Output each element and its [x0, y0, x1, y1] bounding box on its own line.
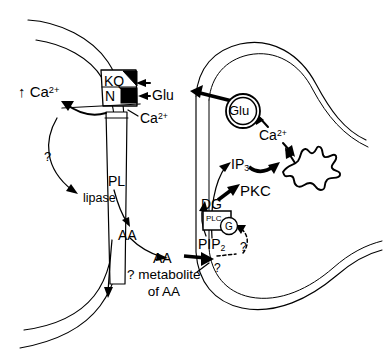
glu-to-receptor-arrow-lower — [138, 92, 150, 100]
label-question-lipase: ? — [44, 150, 51, 163]
label-arachidonic-acid-membrane: AA — [118, 228, 137, 242]
label-presynaptic-calcium: Ca2+ — [259, 128, 287, 142]
synapse-diagram-figure: ↑ Ca2+ KQ N Glu Ca2+ ? PL lipase AA AA ?… — [0, 0, 384, 357]
label-aa-metabolite-line2: of AA — [127, 285, 201, 299]
label-diacylglycerol: DG — [201, 197, 222, 211]
label-pip2: PIP2 — [198, 237, 225, 251]
label-aa-metabolite: ? metabolite of AA — [127, 268, 201, 298]
label-question-g-protein: ? — [240, 241, 247, 253]
label-pkc: PKC — [240, 183, 271, 198]
presynaptic-outer-membrane — [196, 42, 366, 140]
label-ip3: IP3 — [231, 157, 249, 171]
presynaptic-inner-membrane-lower — [209, 100, 382, 298]
calcium-influx-arrow — [61, 101, 106, 115]
glu-to-receptor-arrow-upper — [136, 79, 150, 87]
question-to-lipase-arrow — [49, 118, 78, 194]
label-aa-metabolite-line1: ? metabolite — [127, 268, 201, 282]
label-receptor-nmda: N — [105, 89, 115, 103]
label-question-retrograde: ? — [214, 262, 221, 274]
label-g-protein: G — [225, 222, 233, 232]
diagram-canvas — [0, 0, 384, 357]
cleft-calcium-leader — [128, 110, 138, 116]
label-plc: PLC — [206, 215, 222, 223]
label-vesicle-glutamate: Glu — [229, 104, 249, 117]
presynaptic-outer-membrane-lower — [196, 96, 382, 310]
label-receptor-kq: KQ — [104, 74, 124, 88]
label-lipase: lipase — [83, 192, 116, 205]
receptor-binding-site — [121, 88, 137, 103]
label-glutamate-cleft: Glu — [152, 88, 174, 102]
label-arachidonic-acid-released: AA — [153, 251, 172, 265]
label-calcium-cleft: Ca2+ — [140, 111, 168, 125]
ip3-to-calcium-store-arrow — [249, 162, 280, 174]
question-dashed-arrow-horizontal — [217, 254, 236, 256]
label-calcium-influx: ↑ Ca2+ — [18, 84, 59, 99]
label-phospholipid: PL — [108, 174, 125, 188]
